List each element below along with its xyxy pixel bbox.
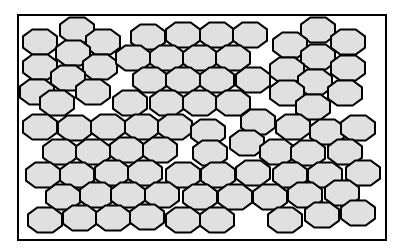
- grain: [76, 80, 110, 105]
- grain: [63, 206, 97, 231]
- grain: [40, 91, 74, 116]
- grain: [80, 183, 114, 208]
- grain: [96, 206, 130, 231]
- grain: [233, 23, 267, 48]
- grain: [183, 91, 217, 116]
- grain: [276, 115, 310, 140]
- grain: [253, 185, 287, 210]
- grain: [200, 23, 234, 48]
- grain: [130, 205, 164, 230]
- grain: [301, 45, 335, 70]
- grain: [23, 30, 57, 55]
- grain: [236, 68, 270, 93]
- grain: [166, 208, 200, 233]
- grain: [110, 138, 144, 163]
- grain: [216, 91, 250, 116]
- grain: [331, 30, 365, 55]
- grain: [305, 203, 339, 228]
- grain: [58, 116, 92, 141]
- grain: [200, 68, 234, 93]
- grain: [341, 116, 375, 141]
- grain: [218, 185, 252, 210]
- grain: [158, 115, 192, 140]
- grain: [230, 131, 264, 156]
- grain: [133, 68, 167, 93]
- grain: [331, 56, 365, 81]
- grain: [125, 115, 159, 140]
- grain: [91, 115, 125, 140]
- grain: [86, 30, 120, 55]
- grain: [83, 55, 117, 80]
- grain: [23, 115, 57, 140]
- grain: [200, 208, 234, 233]
- grain: [166, 68, 200, 93]
- grain: [28, 208, 62, 233]
- grain: [236, 161, 270, 186]
- grain: [143, 138, 177, 163]
- grain: [341, 201, 375, 226]
- grain: [328, 81, 362, 106]
- grain: [183, 185, 217, 210]
- grain-diagram: [0, 0, 402, 249]
- grain: [150, 91, 184, 116]
- grain: [43, 140, 77, 165]
- grain: [166, 23, 200, 48]
- grain: [268, 208, 302, 233]
- grain: [113, 91, 147, 116]
- grain: [260, 140, 294, 165]
